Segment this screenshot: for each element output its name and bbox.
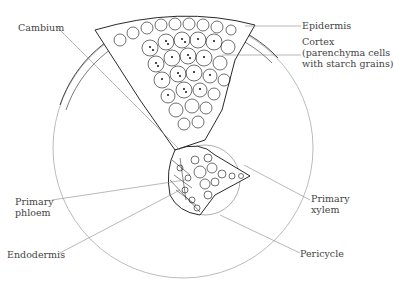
label-cortex-line1: Cortex	[302, 36, 394, 47]
label-primary-xylem-line2: xylem	[311, 204, 350, 215]
label-endodermis: Endodermis	[7, 249, 65, 260]
cortex-wedge	[95, 16, 255, 150]
label-cortex-line2: (parenchyma cells	[302, 47, 394, 58]
label-primary-phloem-line1: Primary	[15, 196, 54, 207]
label-cortex: Cortex (parenchyma cells with starch gra…	[302, 36, 394, 69]
primary-phloem-leader	[52, 180, 185, 200]
pericycle-leader	[220, 215, 300, 253]
label-cortex-line3: with starch grains)	[302, 58, 394, 69]
label-epidermis: Epidermis	[302, 20, 351, 31]
primary-xylem-leader	[244, 165, 310, 200]
label-primary-phloem: Primary phloem	[15, 196, 54, 218]
label-primary-xylem-line1: Primary	[311, 193, 350, 204]
label-cambium: Cambium	[18, 22, 64, 33]
label-primary-phloem-line2: phloem	[15, 207, 54, 218]
label-pericycle: Pericycle	[300, 248, 344, 259]
label-primary-xylem: Primary xylem	[311, 193, 350, 215]
